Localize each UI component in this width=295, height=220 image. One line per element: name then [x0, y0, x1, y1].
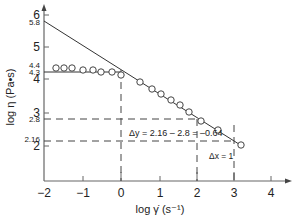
y-annotation-2-16: 2.16 [24, 135, 40, 144]
x-ticks [83, 172, 271, 181]
delta-y-annotation: Δy = 2.16 – 2.8 = –0.64 [129, 128, 223, 138]
x-tick-label: 0 [118, 186, 125, 200]
y-tick-label: 5 [33, 40, 40, 54]
guide-lines [44, 70, 234, 181]
x-tick-label: 4 [268, 186, 275, 200]
y-annotation-4-3: 4.3 [29, 68, 41, 77]
x-tick-label: −1 [76, 186, 90, 200]
x-tick-label: 2 [194, 186, 201, 200]
y-annotation-5-8: 5.8 [29, 18, 41, 27]
y-ticks [44, 15, 49, 146]
x-tick-label: 1 [157, 186, 164, 200]
y-annotation-2-8: 2.8 [29, 115, 41, 124]
x-tick-label: −2 [37, 186, 51, 200]
x-tick-labels: −2 −1 0 1 2 3 4 [37, 186, 275, 200]
delta-x-annotation: Δx = 1 [209, 151, 234, 161]
x-axis-label: log γ̇ (s⁻¹) [136, 203, 185, 215]
y-axis-label: log η (Pa•s) [4, 68, 16, 125]
x-axis-arrow [285, 179, 292, 184]
log-viscosity-vs-shear-rate-chart: 6 5 4 3 2 5.8 4.4 4.3 2.8 2.16 −2 −1 0 1… [0, 0, 295, 220]
axes [42, 4, 293, 184]
y-axis-arrow [42, 4, 47, 11]
x-tick-label: 3 [231, 186, 238, 200]
y-tick-labels: 6 5 4 3 2 [33, 8, 40, 153]
